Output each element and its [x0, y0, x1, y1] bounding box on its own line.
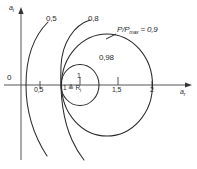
origin-label: 0	[7, 74, 11, 82]
contour-label-0-98: 0,98	[99, 54, 114, 62]
center-normalization-note: 1 ≙ Ri	[63, 85, 81, 92]
leader-line-0-9	[106, 34, 116, 39]
y-axis	[18, 7, 23, 160]
x-axis-label: ar	[180, 88, 185, 95]
x-axis	[4, 82, 192, 87]
x-tick-label-2: 2	[150, 86, 154, 93]
x-tick-label-0-5: 0,5	[34, 86, 43, 93]
x-axis-arrow-icon	[185, 82, 192, 87]
center-value-label: 1	[77, 72, 81, 79]
contour-label-0-8: 0,8	[88, 15, 99, 23]
plot-area	[0, 0, 197, 169]
figure-constant-power-contours: ai ar 0 0,5 1,5 2 0,5 0,8 0,98 P/Pmax = …	[0, 0, 197, 169]
x-axis-ticks	[40, 77, 152, 89]
y-axis-arrow-icon	[18, 7, 23, 14]
contour-label-0-5: 0,5	[46, 15, 57, 23]
power-ratio-formula-label: P/Pmax = 0,9	[117, 26, 158, 34]
x-tick-label-1-5: 1,5	[112, 86, 121, 93]
y-axis-label: ai	[9, 4, 14, 11]
